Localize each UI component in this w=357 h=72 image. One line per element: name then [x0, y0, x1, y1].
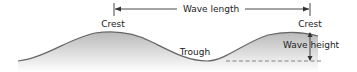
arrowhead-right-icon	[303, 7, 309, 12]
arrowhead-left-icon	[115, 7, 121, 12]
wave-height-label: Wave height	[283, 40, 340, 50]
crest-right-label: Crest	[298, 19, 322, 29]
wave-fill	[18, 32, 318, 72]
wave-diagram: Wave length Crest Crest Trough Wave heig…	[0, 0, 357, 72]
trough-label: Trough	[179, 47, 210, 57]
crest-left-label: Crest	[101, 19, 125, 29]
wavelength-label: Wave length	[183, 4, 239, 14]
